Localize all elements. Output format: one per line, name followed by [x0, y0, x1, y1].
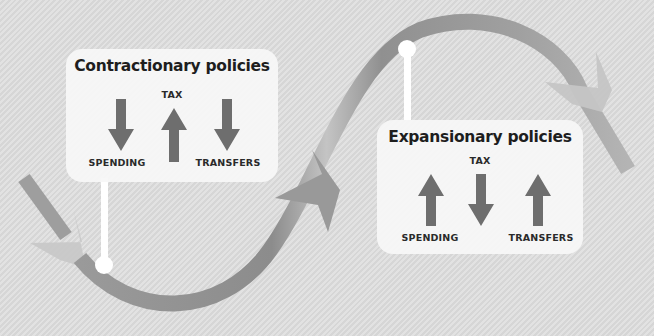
connector-peak — [404, 52, 411, 120]
label-spending: SPENDING — [397, 232, 463, 243]
label-transfers: TRANSFERS — [190, 157, 266, 168]
label-tax: TAX — [460, 155, 500, 166]
arrow-down-icon — [106, 99, 136, 151]
arrow-up-icon — [159, 108, 189, 162]
contractionary-panel: Contractionary policies TAX SPENDING TRA… — [66, 49, 278, 182]
arrow-down-icon — [212, 99, 242, 151]
label-spending: SPENDING — [84, 157, 150, 168]
peak-marker — [398, 40, 416, 58]
wave-segment-left — [24, 178, 66, 236]
trough-marker — [95, 256, 113, 274]
connector-trough — [101, 178, 108, 266]
label-tax: TAX — [152, 89, 192, 100]
expansionary-panel: Expansionary policies TAX SPENDING TRANS… — [377, 120, 583, 254]
label-transfers: TRANSFERS — [503, 232, 579, 243]
panel-title: Contractionary policies — [66, 57, 278, 75]
panel-title: Expansionary policies — [377, 128, 583, 146]
arrow-up-icon — [416, 174, 446, 226]
arrow-down-icon — [466, 174, 496, 226]
arrow-up-icon — [523, 174, 553, 226]
